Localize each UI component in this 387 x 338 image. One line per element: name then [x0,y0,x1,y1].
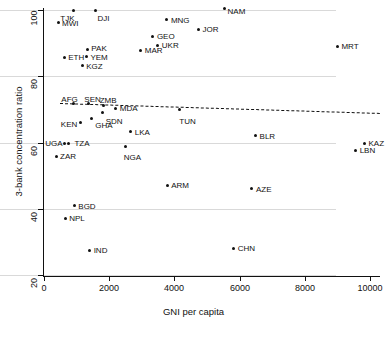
data-point-label: KEN [61,120,77,129]
data-point [57,21,60,24]
data-point-label: JOR [203,25,219,34]
y-axis-title: 3-bank concentration ratio [13,72,24,212]
data-point [114,107,117,110]
data-point [165,18,168,21]
data-point-label: ETH [68,53,84,62]
data-point-label: NAM [228,7,246,16]
data-point [254,134,257,137]
data-point [64,217,67,220]
data-point [124,145,127,148]
data-point [197,28,200,31]
data-point [232,247,235,250]
data-point [90,117,93,120]
data-point-label: MWI [62,19,78,28]
data-point [101,111,104,114]
data-point-label: CHN [238,244,255,253]
data-point-label: BGD [78,202,95,211]
data-point [79,121,82,124]
data-point [166,184,169,187]
data-point [55,155,58,158]
data-point-label: MRT [341,42,358,51]
x-axis-title: GNI per capita [0,306,387,317]
data-point [129,130,132,133]
scatter-chart: 20406080100 0200040006000800010000 TJKDJ… [0,0,387,338]
data-points-layer: TJKDJIMWIMNGNAMJORGEOUKRMARMRTPAKYEMETHK… [0,0,387,338]
data-point-label: GHA [95,121,112,130]
data-point-label: KGZ [86,62,102,71]
data-point [354,149,357,152]
data-point-label: LKA [135,128,150,137]
data-point [94,9,97,12]
data-point-label: MAR [145,46,163,55]
data-point-label: GEO [157,32,175,41]
data-point-label: MNG [171,16,190,25]
data-point [250,187,253,190]
data-point-label: ARM [171,181,189,190]
data-point [81,64,84,67]
data-point [67,142,70,145]
data-point-label: UKR [162,41,179,50]
data-point [86,48,89,51]
data-point [63,142,66,145]
data-point [63,56,66,59]
data-point [73,204,76,207]
data-point [363,142,366,145]
data-point [151,35,154,38]
data-point-label: BLR [260,132,276,141]
data-point [88,249,91,252]
data-point-label: DJI [98,14,110,23]
data-point [72,9,75,12]
data-point-label: SEN [84,95,100,104]
data-point-label: IND [94,246,108,255]
data-point-label: UGA [45,139,62,148]
data-point-label: TZA [74,139,89,148]
data-point [178,108,181,111]
data-point-label: LBN [360,146,376,155]
data-point [85,55,88,58]
data-point-label: TUN [179,117,195,126]
data-point-label: AZE [256,185,272,194]
data-point-label: ZAR [60,152,76,161]
data-point [336,45,339,48]
data-point [139,49,142,52]
data-point-label: NPL [69,214,85,223]
data-point-label: NGA [124,153,141,162]
data-point [223,7,226,10]
